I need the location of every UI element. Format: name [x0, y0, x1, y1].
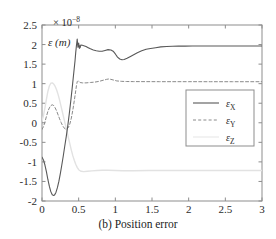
y-tick-label-1: -1.5: [20, 175, 38, 187]
x-tick-label-2: 1: [113, 203, 119, 215]
y-tick-label-5: 0.5: [23, 97, 37, 109]
y-tick-label-0: -2: [28, 195, 37, 207]
x-tick-label-1: 0.5: [72, 203, 86, 215]
y-tick-label-3: -0.5: [20, 136, 38, 148]
x-tick-label-4: 2: [186, 203, 192, 215]
x-tick-label-6: 3: [259, 203, 265, 215]
figure-caption: (b) Position error: [98, 218, 177, 231]
x-tick-labels: 00.511.522.53: [39, 203, 265, 215]
position-error-figure: 00.511.522.53 -2-1.5-1-0.500.511.522.5 ×…: [0, 0, 276, 239]
y-tick-label-2: -1: [28, 156, 37, 168]
y-axis-label: ε (m): [48, 36, 71, 49]
y-tick-label-8: 2: [32, 39, 38, 51]
legend: εXεYεZ: [186, 90, 254, 146]
y-tick-label-7: 1.5: [23, 58, 37, 70]
x-tick-label-0: 0: [39, 203, 45, 215]
y-tick-label-6: 1: [32, 78, 38, 90]
x-tick-label-5: 2.5: [218, 203, 232, 215]
chart-canvas: 00.511.522.53 -2-1.5-1-0.500.511.522.5 ×…: [0, 0, 276, 239]
y-tick-label-9: 2.5: [23, 19, 37, 31]
legend-box: [186, 90, 254, 146]
x-tick-label-3: 1.5: [145, 203, 159, 215]
y-tick-label-4: 0: [32, 117, 38, 129]
